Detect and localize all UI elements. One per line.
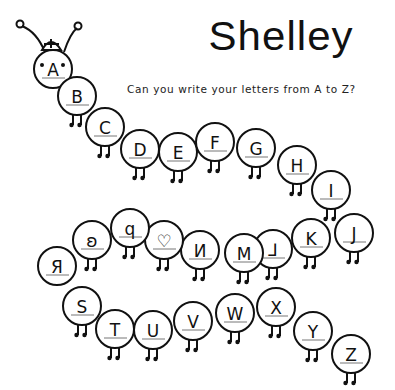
legs-icon	[343, 372, 355, 385]
legs-icon	[305, 349, 317, 362]
caterpillar-segment: I	[312, 171, 350, 209]
legs-icon	[107, 347, 119, 360]
caterpillar-segment: W	[216, 294, 254, 332]
legs-icon	[289, 183, 301, 196]
caterpillar-segment: V	[174, 302, 212, 340]
handwritten-letter: U	[147, 321, 159, 341]
handwritten-letter: S	[77, 297, 88, 317]
handwritten-letter: C	[99, 118, 111, 138]
handwritten-letter: ⅃	[268, 240, 277, 260]
handwritten-letter: X	[270, 298, 282, 318]
handwritten-letter: q	[125, 219, 136, 239]
caterpillar-segment: C	[86, 108, 124, 146]
legs-icon	[323, 208, 335, 221]
handwritten-letter: W	[227, 304, 244, 324]
legs-icon	[346, 251, 358, 264]
handwritten-letter: ʚ	[86, 231, 97, 251]
caterpillar-segment: U	[134, 311, 172, 349]
handwritten-letter: J	[350, 224, 356, 244]
caterpillar-segment: S	[63, 287, 101, 325]
legs-icon	[236, 271, 248, 284]
caterpillar-segment: D	[121, 130, 159, 168]
caterpillar-segment: ʚ	[73, 221, 111, 259]
caterpillar-segment: q	[111, 209, 149, 247]
caterpillar-segment: F	[196, 123, 234, 161]
handwritten-letter: D	[133, 140, 146, 160]
caterpillar-segment: E	[159, 133, 197, 171]
legs-icon	[97, 145, 109, 158]
legs-icon	[303, 256, 315, 269]
legs-icon	[156, 258, 168, 271]
eye-icon	[61, 63, 65, 67]
legs-icon	[192, 268, 204, 281]
hat-icon	[42, 39, 61, 50]
handwritten-letter: V	[187, 312, 199, 332]
legs-icon	[69, 114, 81, 127]
caterpillar-drawing: ABCDEFGHIJK⅃MИ♡qʚЯSTUVWXYZ	[0, 0, 395, 390]
handwritten-letter: F	[210, 133, 220, 153]
caterpillar-segment: K	[292, 219, 330, 257]
caterpillar-segment: J	[335, 214, 373, 252]
caterpillar-segment: Я	[38, 247, 76, 285]
handwritten-letter: M	[237, 244, 252, 264]
caterpillar-segment: Z	[332, 335, 370, 373]
handwritten-letter: K	[305, 229, 317, 249]
caterpillar-segment: M	[225, 234, 263, 272]
handwritten-letter: I	[328, 181, 333, 201]
caterpillar-segment: G	[237, 129, 275, 167]
legs-icon	[227, 331, 239, 344]
legs-icon	[74, 324, 86, 337]
caterpillar-segment: H	[278, 146, 316, 184]
legs-icon	[84, 258, 96, 271]
handwritten-letter: T	[109, 320, 121, 340]
legs-icon	[185, 339, 197, 352]
caterpillar-segment: T	[96, 310, 134, 348]
legs-icon	[268, 325, 280, 338]
handwritten-letter: E	[173, 143, 184, 163]
legs-icon	[132, 167, 144, 180]
legs-icon	[122, 246, 134, 259]
caterpillar-segment: X	[257, 288, 295, 326]
handwritten-letter: B	[71, 87, 83, 107]
caterpillar-segment: B	[58, 77, 96, 115]
legs-icon	[248, 166, 260, 179]
legs-icon	[170, 170, 182, 183]
handwritten-letter: Я	[51, 257, 63, 277]
handwritten-letter: A	[47, 60, 59, 80]
caterpillar-segment: Y	[294, 312, 332, 350]
legs-icon	[145, 348, 157, 361]
legs-icon	[265, 267, 277, 280]
handwritten-letter: Y	[307, 322, 319, 342]
handwritten-letter: H	[291, 156, 304, 176]
eye-icon	[40, 63, 44, 67]
legs-icon	[207, 160, 219, 173]
handwritten-letter: И	[194, 241, 207, 261]
handwritten-letter: Z	[345, 345, 357, 365]
caterpillar-segment: И	[181, 231, 219, 269]
worksheet: Shelley Can you write your letters from …	[0, 0, 395, 390]
caterpillar-segment: ♡	[145, 221, 183, 259]
handwritten-letter: G	[249, 139, 262, 159]
handwritten-letter: ♡	[156, 231, 171, 251]
